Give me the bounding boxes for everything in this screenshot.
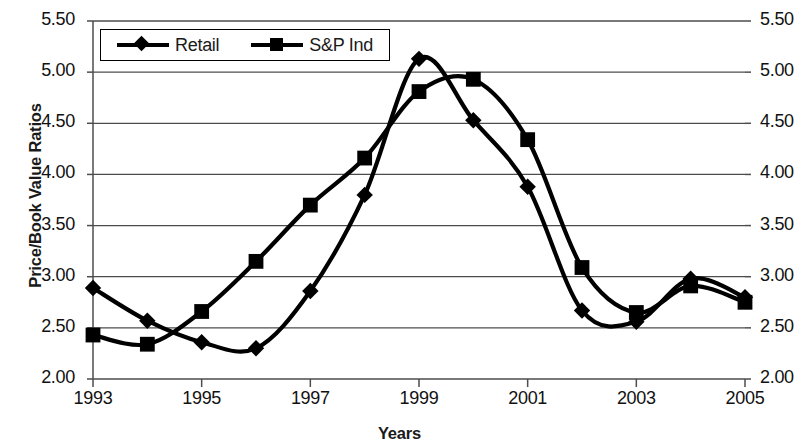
square-marker-icon (251, 37, 303, 53)
data-point-marker (139, 312, 155, 328)
data-point-marker (303, 198, 318, 213)
data-point-marker (140, 337, 155, 352)
data-point-marker (194, 304, 209, 319)
tick-marks (87, 21, 751, 387)
data-point-marker (357, 151, 372, 166)
price-book-ratio-chart: Price/Book Value Ratios Years 2.002.503.… (0, 0, 799, 444)
series-line-retail (93, 57, 745, 352)
data-point-marker (738, 295, 753, 310)
chart-legend: Retail S&P Ind (100, 29, 390, 61)
data-point-marker (466, 72, 481, 87)
data-point-marker (683, 279, 698, 294)
axis-lines (93, 21, 745, 379)
data-point-marker (520, 132, 535, 147)
data-point-marker (249, 254, 264, 269)
legend-label-retail: Retail (175, 35, 219, 56)
data-point-marker (86, 328, 101, 343)
data-point-marker (248, 340, 264, 356)
series-lines (93, 57, 745, 352)
data-point-marker (356, 187, 372, 203)
legend-label-sp-ind: S&P Ind (309, 35, 373, 56)
data-point-marker (412, 84, 427, 99)
data-point-marker (575, 260, 590, 275)
plot-canvas (0, 0, 799, 444)
legend-item-retail: Retail (117, 35, 219, 56)
series-line-s-p-ind (93, 76, 745, 345)
data-point-marker (193, 334, 209, 350)
diamond-marker-icon (117, 37, 169, 53)
legend-item-sp-ind: S&P Ind (251, 35, 373, 56)
data-point-marker (629, 305, 644, 320)
